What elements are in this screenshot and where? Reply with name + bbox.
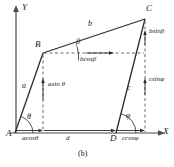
y-axis (13, 5, 19, 133)
vector-label-c: c (127, 84, 131, 92)
y-axis-label: Y (22, 3, 27, 12)
component-label-bsin: bsinβ (149, 28, 164, 35)
point-label-b: B (35, 40, 41, 49)
angle-label-beta: β (76, 38, 80, 46)
angle-label-phi: φ (126, 112, 130, 120)
component-label-csin: csinφ (149, 76, 164, 83)
point-label-d: D (110, 134, 117, 143)
component-label-ccos: ccosφ (122, 135, 138, 142)
component-label-bcos: bcosβ (80, 56, 96, 63)
point-label-c: C (146, 4, 152, 13)
point-label-a: A (6, 129, 12, 138)
vector-label-a: a (22, 82, 26, 90)
component-label-asin: asin θ (48, 81, 65, 88)
x-axis-label: X (163, 127, 169, 136)
angle-label-theta: θ (27, 113, 31, 121)
figure-caption: (b) (78, 150, 87, 158)
component-label-d: d (66, 135, 70, 142)
vector-label-b: b (88, 20, 92, 28)
component-label-acos: acosθ (22, 135, 38, 142)
